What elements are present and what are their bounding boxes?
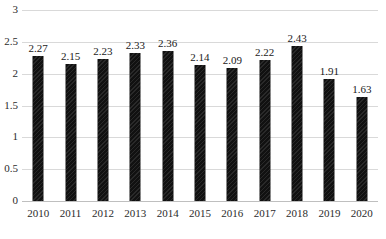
bar-chart: 00.511.522.53 2.272.152.232.332.362.142.…: [0, 0, 386, 239]
bar-slot: 1.91: [313, 10, 345, 201]
x-axis-tick-label: 2016: [216, 206, 248, 220]
x-axis-tick-label: 2018: [281, 206, 313, 220]
bar[interactable]: [292, 46, 303, 201]
bar[interactable]: [227, 68, 238, 201]
bar-slot: 2.22: [249, 10, 281, 201]
bar[interactable]: [259, 60, 270, 201]
bar[interactable]: [130, 53, 141, 201]
bar-value-label: 2.15: [61, 51, 80, 62]
bar-slot: 2.43: [281, 10, 313, 201]
x-axis-tick-label: 2015: [184, 206, 216, 220]
bar[interactable]: [162, 51, 173, 201]
x-axis-tick-label: 2014: [151, 206, 183, 220]
bar-value-label: 1.91: [320, 66, 339, 77]
bar[interactable]: [194, 65, 205, 201]
bar[interactable]: [356, 97, 367, 201]
bar[interactable]: [324, 79, 335, 201]
bar-slot: 2.36: [151, 10, 183, 201]
bar[interactable]: [97, 59, 108, 201]
x-axis-tick-label: 2019: [313, 206, 345, 220]
bar-slot: 2.27: [22, 10, 54, 201]
bar-slot: 2.23: [87, 10, 119, 201]
bar[interactable]: [33, 56, 44, 201]
bar-value-label: 2.23: [93, 46, 112, 57]
x-axis-tick-label: 2011: [54, 206, 86, 220]
bar-slot: 1.63: [346, 10, 378, 201]
bar-value-label: 2.43: [287, 33, 306, 44]
x-axis: 2010201120122013201420152016201720182019…: [22, 206, 378, 222]
y-axis-tick-label: 0: [0, 195, 18, 206]
axis-baseline: [22, 201, 378, 202]
y-axis-tick-label: 0.5: [0, 163, 18, 174]
y-axis-tick-label: 1: [0, 131, 18, 142]
y-axis-tick-label: 2.5: [0, 36, 18, 47]
bar-slot: 2.09: [216, 10, 248, 201]
x-axis-tick-label: 2013: [119, 206, 151, 220]
x-axis-tick-label: 2010: [22, 206, 54, 220]
bar-value-label: 2.22: [255, 47, 274, 58]
bar-value-label: 1.63: [352, 84, 371, 95]
bar-value-label: 2.27: [29, 43, 48, 54]
bars-layer: 2.272.152.232.332.362.142.092.222.431.91…: [22, 10, 378, 201]
y-axis-tick-label: 3: [0, 4, 18, 15]
y-axis: 00.511.522.53: [0, 10, 18, 201]
x-axis-tick-label: 2017: [249, 206, 281, 220]
bar-value-label: 2.33: [126, 40, 145, 51]
y-axis-tick-label: 2: [0, 68, 18, 79]
bar-value-label: 2.09: [223, 55, 242, 66]
y-axis-tick-label: 1.5: [0, 100, 18, 111]
x-axis-tick-label: 2020: [346, 206, 378, 220]
bar-slot: 2.33: [119, 10, 151, 201]
bar[interactable]: [65, 64, 76, 201]
bar-slot: 2.15: [54, 10, 86, 201]
bar-value-label: 2.14: [190, 52, 209, 63]
bar-slot: 2.14: [184, 10, 216, 201]
x-axis-tick-label: 2012: [87, 206, 119, 220]
bar-value-label: 2.36: [158, 38, 177, 49]
